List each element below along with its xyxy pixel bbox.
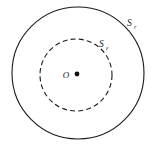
outer-circle-label: S [127,18,132,28]
center-point-label: O [63,70,70,80]
inner-circle-label: S [99,39,104,49]
figure-container: O S r S ε [0,0,153,145]
center-point-dot [75,72,80,77]
concentric-circles-diagram: O S r S ε [0,0,153,145]
